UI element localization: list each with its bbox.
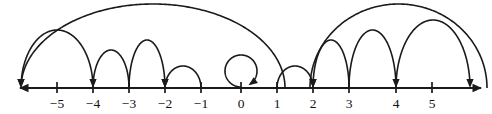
tick-label-1: 1 [274, 96, 281, 111]
axis-right-arrowhead [473, 84, 483, 92]
tick-label-neg1: −1 [194, 96, 208, 111]
arc-arc-h [349, 30, 396, 88]
tick-labels-layer: −5−4−3−2−1012345 [50, 96, 436, 111]
tick-label-neg4: −4 [86, 96, 101, 111]
arc-arc-a [22, 4, 285, 88]
tick-label-neg5: −5 [50, 96, 65, 111]
tick-label-neg3: −3 [122, 96, 137, 111]
arcs-layer [17, 4, 487, 88]
tick-label-2: 2 [310, 96, 317, 111]
arc-arc-g [313, 40, 349, 88]
arc-arc-d [129, 40, 165, 88]
arc-arc-e [167, 66, 201, 88]
tick-label-5: 5 [429, 96, 436, 111]
tick-label-0: 0 [238, 96, 245, 111]
zero-loop-arrowhead [249, 77, 258, 85]
tick-label-neg2: −2 [158, 96, 172, 111]
arc-arc-j [310, 4, 487, 88]
tick-label-4: 4 [393, 96, 400, 111]
axis-layer [19, 84, 482, 92]
tick-label-3: 3 [346, 96, 353, 111]
number-line-figure: −5−4−3−2−1012345 [0, 0, 492, 114]
number-line-diagram: −5−4−3−2−1012345 [0, 0, 492, 114]
arc-arc-i [396, 20, 470, 88]
arc-arc-c [94, 50, 129, 88]
arc-arc-b [21, 30, 93, 88]
